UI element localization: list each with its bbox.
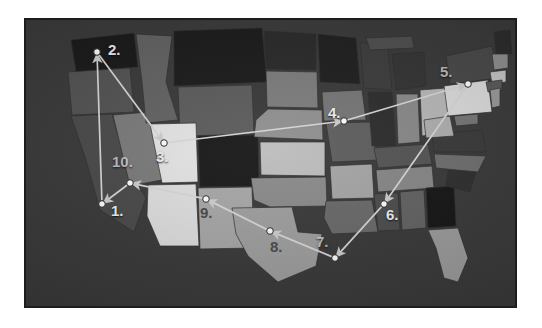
route-node-4[interactable] [341,118,348,125]
us-map-svg [26,20,515,306]
route-node-9[interactable] [203,196,210,203]
map-canvas: 1.2.3.4.5.6.7.8.9.10. [26,20,515,306]
map-frame: 1.2.3.4.5.6.7.8.9.10. [24,18,517,308]
route-node-10[interactable] [127,180,134,187]
route-node-3[interactable] [161,140,168,147]
route-node-8[interactable] [267,228,274,235]
route-node-6[interactable] [381,201,388,208]
state-shapes [68,28,512,282]
route-node-2[interactable] [94,49,101,56]
screenshot-stage: 1.2.3.4.5.6.7.8.9.10. [0,0,542,328]
route-node-7[interactable] [332,255,339,262]
route-node-1[interactable] [99,201,106,208]
route-node-5[interactable] [465,81,472,88]
